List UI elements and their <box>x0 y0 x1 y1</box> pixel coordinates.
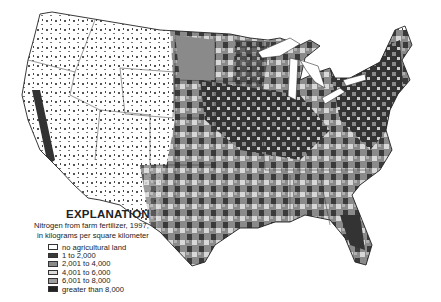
legend-swatch <box>48 253 58 259</box>
legend-swatch <box>48 278 58 284</box>
legend-items: no agricultural land 1 to 2,000 2,001 to… <box>48 243 174 293</box>
legend-title: EXPLANATION <box>42 208 174 220</box>
legend-swatch <box>48 270 58 276</box>
legend-subtitle-1: Nitrogen from farm fertilizer, 1997, <box>34 221 174 230</box>
legend-label: greater than 8,000 <box>62 285 124 294</box>
map-legend: EXPLANATION Nitrogen from farm fertilize… <box>34 208 174 293</box>
legend-swatch <box>48 261 58 267</box>
legend-swatch <box>48 244 58 250</box>
legend-subtitle-2: in kilograms per square kilometer <box>37 231 174 240</box>
legend-item-greater-than-8000: greater than 8,000 <box>48 285 174 293</box>
legend-swatch <box>48 286 58 292</box>
